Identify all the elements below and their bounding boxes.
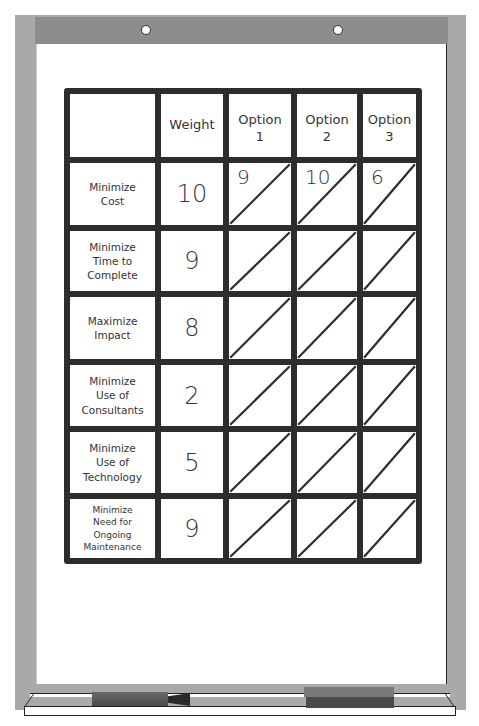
score-cell-option-2 — [297, 499, 357, 558]
diagonal-divider-icon — [229, 231, 291, 291]
weight-value: 2 — [184, 382, 199, 410]
diagonal-divider-icon — [363, 499, 416, 558]
score-cell-option-2: 10 — [297, 163, 357, 225]
score-cell-option-3: 6 — [363, 163, 416, 225]
score-cell-option-1 — [229, 231, 291, 291]
criterion-cell: Minimize Cost — [70, 163, 155, 225]
eraser-top-icon — [304, 687, 394, 697]
column-header-option-2: Option 2 — [297, 94, 357, 157]
criterion-cell: Minimize Need for Ongoing Maintenance — [70, 499, 155, 558]
header-corner-cell — [70, 94, 155, 157]
column-header-option-3: Option 3 — [363, 94, 416, 157]
score-value: 6 — [371, 165, 384, 189]
score-cell-option-2 — [297, 365, 357, 426]
weight-cell: 2 — [161, 365, 223, 426]
score-value: 10 — [305, 165, 330, 189]
weight-cell: 9 — [161, 231, 223, 291]
score-value: 9 — [237, 165, 250, 189]
criterion-label: Maximize Impact — [88, 314, 138, 342]
weight-value: 5 — [184, 449, 199, 477]
diagonal-divider-icon — [297, 231, 357, 291]
marker-icon[interactable] — [92, 692, 168, 706]
diagonal-divider-icon — [297, 499, 357, 558]
column-header-label: Option 2 — [305, 106, 348, 146]
criterion-label: Minimize Use of Technology — [83, 441, 142, 484]
score-cell-option-1 — [229, 432, 291, 493]
diagonal-divider-icon — [229, 297, 291, 359]
decision-matrix: WeightOption 1Option 2Option 3Minimize C… — [64, 88, 422, 564]
diagonal-divider-icon — [229, 499, 291, 558]
criterion-label: Minimize Cost — [89, 180, 136, 208]
criterion-label: Minimize Time to Complete — [87, 240, 138, 283]
diagonal-divider-icon — [363, 231, 416, 291]
criterion-cell: Minimize Use of Consultants — [70, 365, 155, 426]
column-header-label: Option 3 — [368, 106, 411, 146]
criterion-cell: Minimize Time to Complete — [70, 231, 155, 291]
weight-cell: 8 — [161, 297, 223, 359]
score-cell-option-3 — [363, 432, 416, 493]
score-cell-option-1: 9 — [229, 163, 291, 225]
score-cell-option-1 — [229, 499, 291, 558]
weight-value: 10 — [177, 180, 208, 208]
weight-value: 9 — [184, 515, 199, 543]
hanging-hole-left — [141, 25, 151, 35]
criterion-cell: Maximize Impact — [70, 297, 155, 359]
weight-cell: 5 — [161, 432, 223, 493]
diagonal-divider-icon — [363, 432, 416, 493]
diagonal-divider-icon — [297, 432, 357, 493]
score-cell-option-3 — [363, 231, 416, 291]
weight-value: 8 — [184, 314, 199, 342]
column-header-weight: Weight — [161, 94, 223, 157]
eraser-icon[interactable] — [306, 697, 394, 708]
weight-value: 9 — [184, 247, 199, 275]
score-cell-option-1 — [229, 297, 291, 359]
criterion-label: Minimize Use of Consultants — [81, 374, 143, 417]
column-header-label: Option 1 — [238, 106, 281, 146]
score-cell-option-2 — [297, 297, 357, 359]
diagonal-divider-icon — [229, 365, 291, 426]
criterion-label: Minimize Need for Ongoing Maintenance — [84, 504, 142, 553]
column-header-option-1: Option 1 — [229, 94, 291, 157]
score-cell-option-3 — [363, 499, 416, 558]
score-cell-option-3 — [363, 365, 416, 426]
criterion-cell: Minimize Use of Technology — [70, 432, 155, 493]
weight-cell: 10 — [161, 163, 223, 225]
column-header-label: Weight — [169, 117, 214, 134]
score-cell-option-2 — [297, 432, 357, 493]
diagonal-divider-icon — [363, 297, 416, 359]
diagonal-divider-icon — [363, 365, 416, 426]
diagonal-divider-icon — [297, 365, 357, 426]
diagonal-divider-icon — [297, 297, 357, 359]
score-cell-option-3 — [363, 297, 416, 359]
flipchart-header-bar — [35, 17, 448, 44]
diagonal-divider-icon — [229, 432, 291, 493]
weight-cell: 9 — [161, 499, 223, 558]
score-cell-option-2 — [297, 231, 357, 291]
hanging-hole-right — [333, 25, 343, 35]
score-cell-option-1 — [229, 365, 291, 426]
